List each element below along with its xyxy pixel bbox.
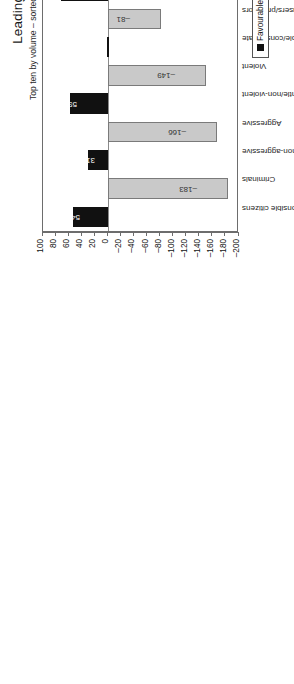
y-axis-tick-label: –20 <box>114 239 123 253</box>
y-axis-tick-mark <box>185 232 186 236</box>
y-axis-tick-label: 80 <box>49 239 58 248</box>
category-label-text: Aggressive <box>242 119 282 127</box>
y-axis-tick-label: –160 <box>206 239 215 257</box>
category-label: Sexually responsible/considerate <box>125 34 242 42</box>
y-axis-tick-label: 40 <box>75 239 84 248</box>
bar-favourable[interactable]: 54 <box>73 207 108 227</box>
bar-unfavourable[interactable]: –149 <box>108 65 205 85</box>
category-label-text: Strong active but non-aggressive <box>242 147 294 155</box>
y-axis-tick-label: 100 <box>36 239 45 253</box>
category-label: Aggressive <box>202 119 242 127</box>
legend-label: Favourable <box>256 0 265 41</box>
y-axis-tick-label: 0 <box>101 239 110 244</box>
bar-value-label: –81 <box>117 15 130 23</box>
y-axis-tick-label: –120 <box>180 239 189 257</box>
y-axis-tick-label: –80 <box>154 239 163 253</box>
category-label: Violent <box>218 62 242 70</box>
category-label: Sexual abusers/predators <box>151 6 242 14</box>
y-axis-tick-label: –60 <box>141 239 150 253</box>
bar-value-label: –183 <box>179 185 197 193</box>
y-axis-tick-mark <box>55 232 56 236</box>
bar-value-label: –149 <box>157 71 175 79</box>
category-label: Law – abiding responsible citizens <box>121 204 242 212</box>
bar-value-label: 59 <box>68 100 77 108</box>
y-axis-tick-mark <box>172 232 173 236</box>
bar-favourable[interactable]: 73 <box>61 0 109 1</box>
category-label-text: Criminals <box>242 175 275 183</box>
bar-slot: 73 <box>43 0 237 5</box>
y-axis-tick-mark <box>211 232 212 236</box>
legend-swatch-favourable <box>257 44 264 51</box>
y-axis-tick-mark <box>68 232 69 236</box>
category-label-text: Protectors/carers/gentle/non-violent <box>242 90 294 98</box>
y-axis-tick-mark <box>107 232 108 236</box>
bar-favourable[interactable]: 59 <box>70 94 109 114</box>
bar-favourable[interactable]: 31 <box>88 150 108 170</box>
chart-figure: Leading messages about men Top ten by vo… <box>0 0 294 294</box>
bar-favourable[interactable] <box>107 37 109 57</box>
category-label: Strong active but non-aggressive <box>125 147 242 155</box>
y-axis-tick-mark <box>94 232 95 236</box>
y-axis-tick-label: –140 <box>193 239 202 257</box>
y-axis-tick-mark <box>81 232 82 236</box>
y-axis-tick-mark <box>198 232 199 236</box>
y-axis-tick-label: –200 <box>232 239 241 257</box>
y-axis-tick-label: –100 <box>167 239 176 257</box>
y-axis-tick-mark <box>238 232 239 236</box>
y-axis-tick-mark <box>146 232 147 236</box>
bar-slot: –149 <box>43 61 237 89</box>
legend-item[interactable]: Favourable <box>256 0 265 51</box>
bar-value-label: 54 <box>71 213 80 221</box>
y-axis-tick-label: –180 <box>219 239 228 257</box>
y-axis: –200–180–160–140–120–100–80–60–40–200204… <box>42 232 238 294</box>
y-axis-tick-mark <box>42 232 43 236</box>
chart-legend: FavourableUnfavourable <box>252 0 269 58</box>
y-axis-tick-mark <box>224 232 225 236</box>
y-axis-tick-label: –40 <box>127 239 136 253</box>
y-axis-tick-mark <box>120 232 121 236</box>
category-label-text: Violent <box>242 62 266 70</box>
bar-value-label: 31 <box>86 156 95 164</box>
title-block: Leading messages about men Top ten by vo… <box>10 0 38 294</box>
category-label-text: Law – abiding responsible citizens <box>242 204 294 212</box>
y-axis-tick-label: 60 <box>62 239 71 248</box>
bar-value-label: –166 <box>168 128 186 136</box>
y-axis-tick-mark <box>159 232 160 236</box>
category-label: Protectors/carers/gentle/non-violent <box>116 90 242 98</box>
category-label: Criminals <box>209 175 242 183</box>
y-axis-line <box>42 232 238 233</box>
page-title: Leading messages about men <box>10 0 25 294</box>
y-axis-tick-mark <box>133 232 134 236</box>
bar-unfavourable[interactable]: –166 <box>108 122 216 142</box>
y-axis-tick-label: 20 <box>88 239 97 248</box>
